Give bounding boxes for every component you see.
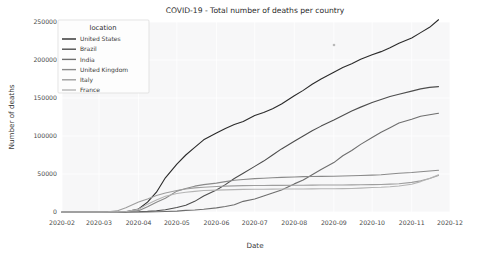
legend-label-france[interactable]: France [80,86,100,93]
x-tick-label: 2020-06 [204,219,230,226]
x-tick-label: 2020-07 [242,219,268,226]
chart-title: COVID-19 - Total number of deaths per co… [166,6,345,15]
x-tick-label: 2020-12 [437,219,463,226]
x-tick-label: 2020-03 [86,219,112,226]
chart-legend[interactable]: location United StatesBrazilIndiaUnited … [58,20,149,93]
x-axis-label: Date [246,241,264,250]
y-tick-label: 0 [53,208,57,215]
x-tick-label: 2020-04 [126,219,152,226]
x-tick-label: 2020-09 [321,219,347,226]
y-tick-label: 150000 [33,94,57,101]
y-axis-label: Number of deaths [7,84,16,149]
legend-title: location [90,24,117,32]
y-tick-label: 250000 [33,18,57,25]
legend-label-india[interactable]: India [80,56,95,63]
y-tick-label: 100000 [33,132,57,139]
x-tick-label: 2020-11 [399,219,425,226]
legend-label-brazil[interactable]: Brazil [80,45,97,52]
x-tick-label: 2020-02 [49,219,75,226]
legend-label-united-kingdom[interactable]: United Kingdom [80,66,128,74]
y-tick-label: 50000 [37,170,57,177]
x-axis-ticks: 2020-022020-032020-042020-052020-062020-… [49,219,463,226]
legend-label-italy[interactable]: Italy [80,76,93,84]
x-tick-label: 2020-10 [359,219,385,226]
chart-figure: COVID-19 - Total number of deaths per co… [0,0,477,257]
covid-deaths-line-chart: COVID-19 - Total number of deaths per co… [0,0,477,257]
legend-label-united-states[interactable]: United States [80,35,121,42]
x-tick-label: 2020-05 [164,219,190,226]
y-tick-label: 200000 [33,56,57,63]
scan-speck-artifact [333,44,336,47]
x-tick-label: 2020-08 [281,219,307,226]
